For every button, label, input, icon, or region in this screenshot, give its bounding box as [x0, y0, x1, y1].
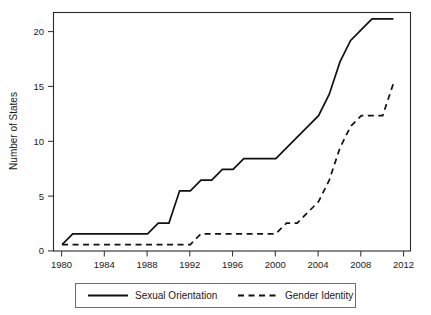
legend-label-sexual-orientation: Sexual Orientation [135, 290, 217, 301]
line-chart-figure: 0 5 10 15 20 1980 1984 1988 1992 1996 20… [0, 0, 431, 315]
x-tick-label-2004: 2004 [308, 259, 329, 270]
legend-label-gender-identity: Gender Identity [285, 290, 353, 301]
x-tick-label-1980: 1980 [51, 259, 72, 270]
y-tick-label-15: 15 [33, 81, 44, 92]
x-tick-label-1988: 1988 [137, 259, 158, 270]
x-axis-tick-labels: 1980 1984 1988 1992 1996 2000 2004 2008 … [51, 259, 414, 270]
x-tick-label-2000: 2000 [265, 259, 286, 270]
y-tick-label-10: 10 [33, 136, 44, 147]
y-tick-label-5: 5 [39, 191, 44, 202]
chart-legend: Sexual Orientation Gender Identity [76, 284, 356, 308]
chart-canvas: 0 5 10 15 20 1980 1984 1988 1992 1996 20… [0, 0, 431, 315]
x-tick-label-1996: 1996 [222, 259, 243, 270]
x-tick-label-2012: 2012 [393, 259, 414, 270]
y-tick-label-20: 20 [33, 26, 44, 37]
x-tick-label-1984: 1984 [94, 259, 115, 270]
y-tick-label-0: 0 [39, 245, 44, 256]
x-tick-label-1992: 1992 [179, 259, 200, 270]
x-tick-label-2008: 2008 [350, 259, 371, 270]
y-axis-title: Number of States [8, 92, 19, 170]
